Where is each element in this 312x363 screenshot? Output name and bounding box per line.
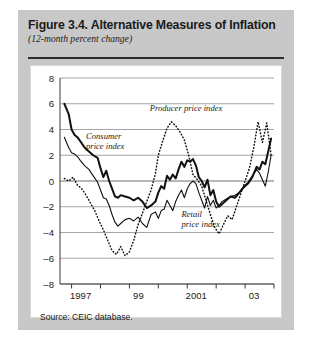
y-axis-tick-label: 4 [49,124,55,135]
source-note: Source: CEIC database. [40,312,133,322]
y-axis-tick-label: 2 [49,150,54,161]
y-axis-tick-label: –4 [43,227,54,238]
y-axis-tick-label: 0 [49,176,54,187]
y-axis-tick-label: 8 [49,73,54,84]
series-annotation-label: price index [180,219,220,229]
series-annotation-label: Producer price index [149,103,223,113]
x-axis-tick-label: 1997 [70,290,91,301]
figure-header: Figure 3.4. Alternative Measures of Infl… [28,18,284,45]
y-axis-tick-label: –2 [43,201,54,212]
series-annotation-label: Consumer [86,131,122,141]
figure-subtitle: (12-month percent change) [28,33,284,45]
header-divider [28,57,284,59]
y-axis-ticks: 86420–2–4–6–8 [43,73,54,290]
x-axis-tick-label: 03 [249,290,260,301]
figure-frame: Figure 3.4. Alternative Measures of Infl… [18,10,294,330]
series-line [64,104,271,208]
x-axis-tick-label: 99 [133,290,144,301]
inflation-line-chart: 86420–2–4–6–8 199799200103 Consumerprice… [31,66,281,317]
y-axis-tick-label: 6 [49,98,54,109]
page-title: Figure 3.4. Alternative Measures of Infl… [28,18,284,32]
series-annotation-label: Retail [180,209,202,219]
y-axis-tick-label: –6 [43,253,54,264]
y-axis-tick-label: –8 [43,279,54,290]
x-axis-tick-label: 2001 [186,290,207,301]
chart-panel: 86420–2–4–6–8 199799200103 Consumerprice… [30,65,282,318]
series-annotation-label: price index [85,141,125,151]
series-annotations: Consumerprice indexProducer price indexR… [85,103,223,229]
